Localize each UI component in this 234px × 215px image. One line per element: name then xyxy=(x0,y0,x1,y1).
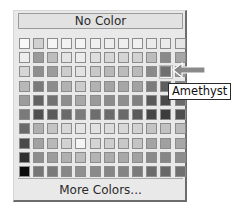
color-swatch-cell[interactable] xyxy=(17,107,31,121)
color-swatch-cell[interactable] xyxy=(31,150,45,164)
color-swatch-cell[interactable] xyxy=(159,36,173,50)
color-swatch-cell[interactable] xyxy=(102,36,116,50)
color-swatch-cell[interactable] xyxy=(102,107,116,121)
color-swatch-cell[interactable] xyxy=(102,65,116,79)
color-swatch-cell[interactable] xyxy=(31,122,45,136)
color-swatch-cell[interactable] xyxy=(131,150,145,164)
color-swatch-cell[interactable] xyxy=(31,136,45,150)
color-swatch-cell[interactable] xyxy=(102,122,116,136)
color-swatch-cell[interactable] xyxy=(31,50,45,64)
color-swatch-cell[interactable] xyxy=(45,50,59,64)
color-swatch-cell[interactable] xyxy=(17,65,31,79)
color-swatch-cell[interactable] xyxy=(145,107,159,121)
color-swatch-cell[interactable] xyxy=(173,107,187,121)
color-swatch-cell[interactable] xyxy=(131,65,145,79)
color-swatch-cell[interactable] xyxy=(102,79,116,93)
color-swatch-cell[interactable] xyxy=(74,79,88,93)
color-swatch-cell[interactable] xyxy=(17,36,31,50)
color-swatch-cell[interactable] xyxy=(31,79,45,93)
color-swatch-cell[interactable] xyxy=(60,93,74,107)
color-swatch-cell[interactable] xyxy=(88,93,102,107)
color-swatch-cell[interactable] xyxy=(17,150,31,164)
color-swatch-cell[interactable] xyxy=(31,36,45,50)
color-swatch-cell-selected[interactable] xyxy=(159,65,173,79)
color-swatch-cell[interactable] xyxy=(45,36,59,50)
color-swatch-cell[interactable] xyxy=(102,136,116,150)
color-swatch-cell[interactable] xyxy=(88,107,102,121)
color-swatch-cell[interactable] xyxy=(145,150,159,164)
color-swatch-cell[interactable] xyxy=(145,36,159,50)
color-swatch-cell[interactable] xyxy=(131,136,145,150)
color-swatch-cell[interactable] xyxy=(74,93,88,107)
color-swatch-cell[interactable] xyxy=(45,93,59,107)
color-swatch-cell[interactable] xyxy=(88,150,102,164)
color-swatch-cell[interactable] xyxy=(88,122,102,136)
color-swatch-cell[interactable] xyxy=(45,165,59,179)
color-swatch-cell[interactable] xyxy=(116,79,130,93)
color-swatch-cell[interactable] xyxy=(88,79,102,93)
color-swatch-cell[interactable] xyxy=(131,93,145,107)
color-swatch-cell[interactable] xyxy=(145,165,159,179)
color-swatch-cell[interactable] xyxy=(31,93,45,107)
color-swatch-cell[interactable] xyxy=(88,65,102,79)
color-swatch-cell[interactable] xyxy=(102,150,116,164)
color-swatch-cell[interactable] xyxy=(17,122,31,136)
color-swatch-cell[interactable] xyxy=(131,107,145,121)
color-swatch-cell[interactable] xyxy=(145,136,159,150)
color-swatch-cell[interactable] xyxy=(145,65,159,79)
color-swatch-cell[interactable] xyxy=(60,65,74,79)
color-swatch-cell[interactable] xyxy=(173,150,187,164)
color-swatch-cell[interactable] xyxy=(17,93,31,107)
color-swatch-cell[interactable] xyxy=(17,50,31,64)
color-swatch-cell[interactable] xyxy=(173,136,187,150)
color-swatch-cell[interactable] xyxy=(45,79,59,93)
color-swatch-cell[interactable] xyxy=(31,107,45,121)
color-swatch-cell[interactable] xyxy=(159,136,173,150)
color-swatch-cell[interactable] xyxy=(102,93,116,107)
color-swatch-cell[interactable] xyxy=(88,36,102,50)
color-swatch-cell[interactable] xyxy=(45,65,59,79)
color-swatch-cell[interactable] xyxy=(45,136,59,150)
color-swatch-cell[interactable] xyxy=(74,107,88,121)
color-swatch-cell[interactable] xyxy=(45,107,59,121)
color-swatch-cell[interactable] xyxy=(60,122,74,136)
color-swatch-cell[interactable] xyxy=(116,165,130,179)
color-swatch-cell[interactable] xyxy=(74,50,88,64)
more-colors-button[interactable]: More Colors... xyxy=(18,181,183,199)
color-swatch-cell[interactable] xyxy=(31,165,45,179)
color-swatch-cell[interactable] xyxy=(145,50,159,64)
color-swatch-cell[interactable] xyxy=(116,65,130,79)
color-swatch-cell[interactable] xyxy=(60,36,74,50)
color-swatch-cell[interactable] xyxy=(60,150,74,164)
color-swatch-cell[interactable] xyxy=(116,136,130,150)
color-swatch-cell[interactable] xyxy=(145,122,159,136)
color-swatch-cell[interactable] xyxy=(145,79,159,93)
color-swatch-cell[interactable] xyxy=(45,122,59,136)
color-swatch-cell[interactable] xyxy=(159,107,173,121)
color-swatch-cell[interactable] xyxy=(74,122,88,136)
color-swatch-cell[interactable] xyxy=(131,50,145,64)
color-swatch-cell[interactable] xyxy=(17,136,31,150)
color-swatch-cell[interactable] xyxy=(88,165,102,179)
color-swatch-cell[interactable] xyxy=(60,50,74,64)
color-swatch-cell[interactable] xyxy=(116,122,130,136)
color-swatch-cell[interactable] xyxy=(159,122,173,136)
color-swatch-cell[interactable] xyxy=(31,65,45,79)
color-swatch-cell[interactable] xyxy=(60,136,74,150)
color-swatch-cell[interactable] xyxy=(159,50,173,64)
color-swatch-cell[interactable] xyxy=(74,150,88,164)
color-swatch-cell[interactable] xyxy=(74,136,88,150)
color-swatch-cell[interactable] xyxy=(116,93,130,107)
color-swatch-cell[interactable] xyxy=(60,107,74,121)
color-swatch-cell[interactable] xyxy=(159,165,173,179)
color-swatch-cell[interactable] xyxy=(131,79,145,93)
color-swatch-cell[interactable] xyxy=(145,93,159,107)
color-swatch-cell[interactable] xyxy=(116,50,130,64)
color-swatch-cell[interactable] xyxy=(116,36,130,50)
no-color-button[interactable]: No Color xyxy=(18,13,183,29)
color-swatch-cell[interactable] xyxy=(173,165,187,179)
color-swatch-cell[interactable] xyxy=(60,79,74,93)
color-swatch-cell[interactable] xyxy=(116,150,130,164)
color-swatch-cell[interactable] xyxy=(74,65,88,79)
color-swatch-cell[interactable] xyxy=(173,36,187,50)
